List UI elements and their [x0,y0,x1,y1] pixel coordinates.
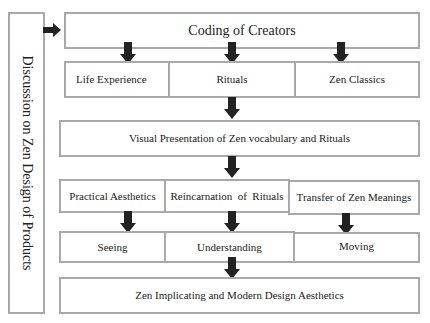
arrow-right-icon [43,23,61,37]
transfer-of-zen-meanings-box: Transfer of Zen Meanings [288,180,420,215]
arrow-down-icon [224,97,240,119]
arrow-down-icon [224,211,240,233]
zen-implicating-box: Zen Implicating and Modern Design Aesthe… [59,277,420,314]
coding-of-creators-box: Coding of Creators [64,12,420,49]
transfer-of-zen-meanings-label: Transfer of Zen Meanings [297,191,412,203]
understanding-label: Understanding [197,241,262,253]
moving-box: Moving [293,232,420,263]
practical-aesthetics-box: Practical Aesthetics [59,179,166,213]
arrow-down-icon [224,257,240,279]
coding-of-creators-label: Coding of Creators [188,23,295,38]
arrow-down-icon [224,156,240,178]
side-label-box: Discussion on Zen Design of Products [8,12,45,314]
practical-aesthetics-label: Practical Aesthetics [69,190,155,202]
reincarnation-of-rituals-box: Reincarnation of Rituals [164,179,290,213]
visual-presentation-box: Visual Presentation of Zen vocabulary an… [59,120,420,157]
zen-classics-label: Zen Classics [329,73,385,85]
rituals-label: Rituals [216,73,247,85]
zen-classics-box: Zen Classics [294,61,420,98]
visual-presentation-label: Visual Presentation of Zen vocabulary an… [129,132,350,144]
reincarnation-of-rituals-label: Reincarnation of Rituals [170,190,283,202]
side-label: Discussion on Zen Design of Products [19,55,35,270]
rituals-box: Rituals [168,61,296,98]
arrow-down-icon [120,211,136,233]
moving-label: Moving [339,240,374,252]
seeing-label: Seeing [98,241,128,253]
life-experience-label: Life Experience [76,73,147,85]
seeing-box: Seeing [59,231,166,263]
life-experience-box: Life Experience [64,61,170,98]
zen-implicating-label: Zen Implicating and Modern Design Aesthe… [135,289,344,301]
